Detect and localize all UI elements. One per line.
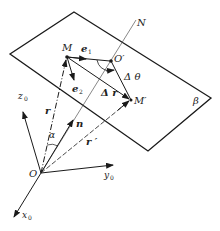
label-delta-theta: Δ θ bbox=[123, 71, 140, 82]
label-m: M bbox=[61, 42, 73, 53]
z0-axis bbox=[23, 112, 41, 173]
label-alpha: α bbox=[49, 130, 55, 140]
alpha-arc bbox=[47, 144, 58, 146]
n-vector bbox=[41, 120, 73, 173]
label-y0-sub: 0 bbox=[110, 174, 114, 181]
label-r-prime: r ′ bbox=[86, 136, 98, 147]
r-vector bbox=[41, 60, 66, 173]
label-beta: β bbox=[192, 95, 199, 106]
label-x0-sub: 0 bbox=[28, 214, 32, 221]
label-z0: z bbox=[17, 91, 23, 101]
point-o-prime bbox=[109, 59, 113, 63]
rotation-kinematics-diagram: N M e 1 O′ Δ θ e 2 Δ r M′ β z 0 r n α r … bbox=[0, 0, 220, 231]
label-x0: x bbox=[22, 210, 27, 220]
r-prime-arrow bbox=[118, 101, 129, 110]
label-z0-sub: 0 bbox=[24, 95, 28, 102]
label-e2: e bbox=[72, 83, 78, 94]
label-o: O bbox=[29, 168, 37, 179]
y0-axis bbox=[41, 165, 113, 173]
point-m bbox=[65, 55, 69, 59]
x0-axis bbox=[14, 173, 41, 217]
label-delta-r: Δ r bbox=[100, 87, 118, 98]
point-m-prime bbox=[130, 99, 133, 102]
label-m-prime: M′ bbox=[133, 95, 147, 106]
label-o-prime: O′ bbox=[114, 53, 125, 64]
label-r: r bbox=[45, 105, 51, 116]
label-n: N bbox=[136, 17, 147, 28]
plane-beta bbox=[10, 12, 211, 151]
delta-theta-arrow bbox=[106, 70, 114, 71]
label-n-vector: n bbox=[76, 118, 83, 129]
label-e1-sub: 1 bbox=[88, 48, 92, 55]
label-y0: y bbox=[103, 170, 110, 180]
label-e1: e bbox=[81, 43, 87, 54]
label-e2-sub: 2 bbox=[79, 88, 83, 95]
